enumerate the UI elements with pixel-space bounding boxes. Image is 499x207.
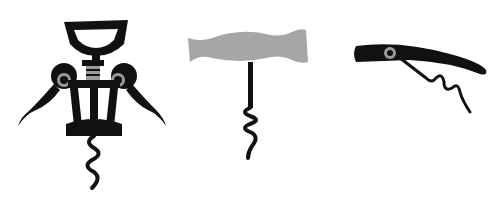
waiters-corkscrew <box>340 20 499 130</box>
t-handle-corkscrew <box>170 0 330 207</box>
wing-corkscrew <box>0 0 170 207</box>
